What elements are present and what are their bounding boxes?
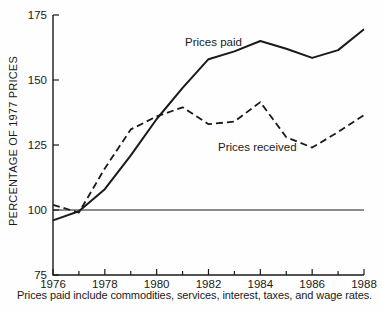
axes [53, 15, 364, 275]
y-tick-label: 100 [28, 204, 47, 216]
prices-received-label: Prices received [218, 141, 297, 153]
price-index-figure: 7510012515017519761978198019821984198619… [0, 0, 382, 310]
y-axis-title: PERCENTAGE OF 1977 PRICES [7, 56, 19, 226]
y-tick-label: 175 [28, 9, 47, 21]
y-tick-label: 150 [28, 74, 47, 86]
y-tick-label: 125 [28, 139, 47, 151]
prices-paid-label: Prices paid [185, 36, 242, 48]
prices-received-line [53, 102, 364, 213]
figure-caption: Prices paid include commodities, service… [17, 289, 377, 301]
